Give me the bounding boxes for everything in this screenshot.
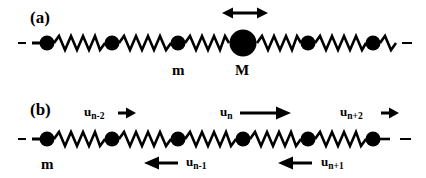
label-u-n-plus-2: un+2 — [340, 105, 363, 119]
panel-a-chain — [0, 0, 426, 89]
panel-b-spring-4 — [250, 132, 301, 146]
panel-b-mass-6 — [366, 132, 381, 147]
u-sub: n+1 — [328, 161, 343, 171]
panel-b-spring-3 — [185, 132, 236, 146]
panel-a-mass-large-label: M — [235, 63, 249, 78]
panel-a-mass-small-label: m — [172, 63, 185, 78]
panel-a-mass-small-5 — [366, 36, 381, 51]
arrow-u-n-minus-1 — [144, 157, 178, 170]
panel-a-mass-large — [230, 30, 257, 57]
panel-b-spring-5 — [315, 132, 366, 146]
panel-b-mass-2 — [105, 132, 120, 147]
panel-a-spring-1 — [54, 36, 105, 50]
panel-a-mass-small-1 — [40, 36, 55, 51]
panel-b-spring-1 — [54, 132, 105, 146]
panel-a-mass-small-4 — [301, 36, 316, 51]
figure-root: (a) m M (b) — [0, 0, 426, 178]
panel-b-mass-3 — [171, 132, 186, 147]
panel-a-spring-6 — [380, 36, 396, 50]
arrow-u-n — [240, 107, 291, 120]
label-u-n-minus-1: un-1 — [186, 155, 206, 169]
panel-a-spring-3 — [185, 36, 229, 50]
panel-a-spring-5 — [315, 36, 366, 50]
u-sub: n+2 — [347, 111, 362, 121]
panel-b-mass-4 — [236, 132, 251, 147]
panel-a-spring-4 — [257, 36, 301, 50]
panel-a-mass-small-3 — [171, 36, 186, 51]
label-u-n: un — [220, 105, 233, 119]
u-sub: n — [227, 111, 232, 121]
label-u-n-minus-2: un-2 — [84, 105, 104, 119]
label-u-n-plus-1: un+1 — [321, 155, 344, 169]
u-sub: n-2 — [91, 111, 104, 121]
arrow-u-n-minus-2 — [118, 108, 136, 119]
arrow-u-n-plus-1 — [278, 157, 312, 170]
panel-a-mass-small-2 — [105, 36, 120, 51]
panel-b-label: (b) — [30, 101, 51, 118]
u-sub: n-1 — [193, 161, 206, 171]
panel-b-mass-small-label: m — [41, 157, 54, 172]
double-headed-arrow — [222, 8, 268, 19]
panel-b-mass-5 — [301, 132, 316, 147]
panel-b-mass-1 — [40, 132, 55, 147]
panel-a-spring-2 — [119, 36, 171, 50]
panel-b-spring-2 — [119, 132, 171, 146]
arrow-u-n-plus-2 — [381, 108, 399, 119]
